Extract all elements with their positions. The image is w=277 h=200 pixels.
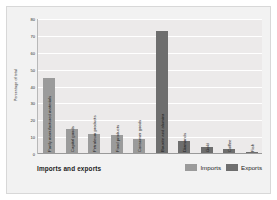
bar-slot: Coffee — [223, 19, 235, 154]
bar-slot: Capital goods — [66, 19, 78, 154]
bar-category-label: Food products — [114, 125, 119, 152]
y-axis-tick: 30 — [24, 101, 35, 106]
x-axis-title: Imports and exports — [37, 165, 101, 172]
y-axis-tick: 80 — [24, 17, 35, 22]
bar-category-label: Petroleum products — [92, 115, 97, 152]
y-axis-tick: 50 — [24, 67, 35, 72]
bar-category-label: Bauxite and alumina — [159, 114, 164, 152]
legend-swatch-imports — [185, 164, 197, 171]
bar-slot: Petroleum products — [88, 19, 100, 154]
bar-category-label: Fish — [249, 144, 254, 152]
legend: ImportsExports — [185, 164, 262, 171]
plot-area: Partly manufactured materialsCapital goo… — [37, 19, 262, 154]
bar-slot: Diamonds — [178, 19, 190, 154]
legend-label-exports: Exports — [241, 164, 262, 171]
y-axis-tick: 20 — [24, 118, 35, 123]
bar-slot: Partly manufactured materials — [43, 19, 55, 154]
chart-card: Percentage of total 80706050403020100 Pa… — [6, 6, 271, 194]
y-axis-title: Percentage of total — [14, 55, 18, 115]
x-axis-line — [38, 153, 262, 154]
legend-label-imports: Imports — [200, 164, 221, 171]
y-axis-tick: 10 — [24, 135, 35, 140]
bar-category-label: Capital goods — [69, 126, 74, 152]
bar-category-label: Diamonds — [182, 133, 187, 152]
legend-item-imports[interactable]: Imports — [185, 164, 221, 171]
bar-slot: Gold — [201, 19, 213, 154]
legend-item-exports[interactable]: Exports — [226, 164, 262, 171]
bar-slot: Bauxite and alumina — [156, 19, 168, 154]
y-axis-tick: 70 — [24, 33, 35, 38]
bar-slot: Fish — [246, 19, 258, 154]
y-axis-tick: 60 — [24, 50, 35, 55]
y-axis-tick-labels: 80706050403020100 — [24, 19, 35, 154]
bar-category-label: Coffee — [227, 140, 232, 152]
y-axis-tick: 0 — [24, 152, 35, 157]
bar-group: Partly manufactured materialsCapital goo… — [38, 19, 262, 154]
y-axis-tick: 40 — [24, 84, 35, 89]
bar-slot: Food products — [111, 19, 123, 154]
bar-slot: Consumer goods — [133, 19, 145, 154]
legend-swatch-exports — [226, 164, 238, 171]
bar-category-label: Gold — [204, 143, 209, 152]
bar-category-label: Partly manufactured materials — [47, 96, 52, 152]
bar-category-label: Consumer goods — [137, 120, 142, 152]
